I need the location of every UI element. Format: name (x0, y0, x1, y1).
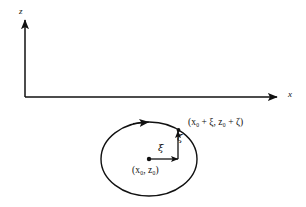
loop-center-coordinate-label: (x₀, z₀) (132, 166, 159, 176)
diagram-vector-graphics (0, 0, 306, 207)
xi-offset-label: ξ (158, 143, 164, 153)
boundary-point-coordinate-label: (x₀ + ξ, z₀ + ζ) (188, 118, 243, 128)
figure-canvas: z x ξ ζ (x₀, z₀) (x₀ + ξ, z₀ + ζ) (0, 0, 306, 207)
zeta-offset-label: ζ (177, 133, 182, 143)
x-axis-label: x (288, 90, 292, 99)
z-axis-label: z (19, 7, 23, 16)
loop-direction-arrow-icon (133, 122, 149, 124)
